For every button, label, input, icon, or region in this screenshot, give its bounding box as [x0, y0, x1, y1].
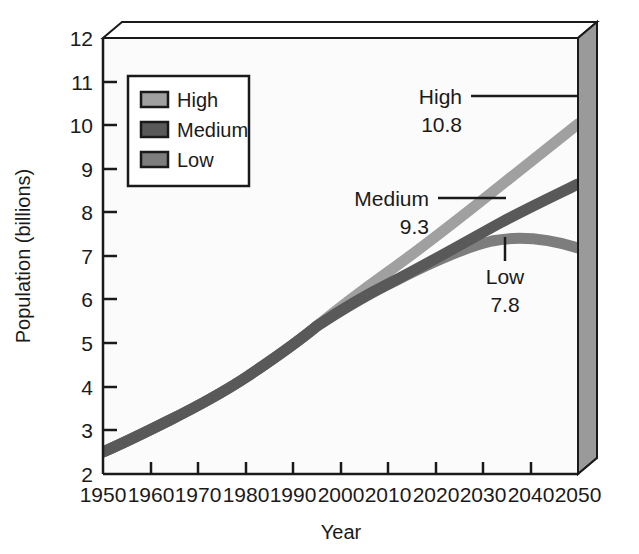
- y-tick-label: 8: [81, 201, 93, 224]
- x-tick-label: 1980: [223, 483, 270, 506]
- box-right-wall: [578, 22, 597, 474]
- legend-item-high[interactable]: High: [141, 89, 218, 111]
- y-tick-label: 4: [81, 376, 93, 399]
- y-tick-label: 12: [70, 27, 93, 50]
- y-tick-label: 6: [81, 288, 93, 311]
- x-tick-label: 1960: [128, 483, 175, 506]
- y-tick-label: 10: [70, 114, 93, 137]
- x-tick-label: 1950: [80, 483, 127, 506]
- x-tick-label: 2050: [555, 483, 602, 506]
- y-tick-labels: 12 11 10 9 8 7 6 5 4 3 2: [70, 27, 94, 486]
- x-tick-label: 2010: [365, 483, 412, 506]
- legend-label-medium: Medium: [177, 119, 248, 141]
- y-tick-label: 9: [81, 158, 93, 181]
- legend: High Medium Low: [128, 76, 249, 186]
- annotation-low-label: Low: [486, 265, 525, 288]
- population-projection-chart: 12 11 10 9 8 7 6 5 4 3 2 Population (bil…: [0, 0, 639, 554]
- annotation-medium-value: 9.3: [400, 215, 429, 238]
- y-tick-label: 5: [81, 332, 93, 355]
- legend-swatch-medium: [141, 122, 168, 137]
- legend-item-medium[interactable]: Medium: [141, 119, 248, 141]
- legend-swatch-low: [141, 152, 168, 167]
- x-tick-label: 2020: [413, 483, 460, 506]
- annotation-high-value: 10.8: [421, 113, 462, 136]
- legend-label-high: High: [177, 89, 218, 111]
- x-axis-title: Year: [321, 521, 362, 543]
- x-tick-label: 2040: [508, 483, 555, 506]
- x-tick-label: 2030: [460, 483, 507, 506]
- annotation-medium-label: Medium: [354, 187, 429, 210]
- x-tick-label: 1990: [270, 483, 317, 506]
- x-tick-label: 2000: [318, 483, 365, 506]
- y-axis-title: Population (billions): [12, 169, 34, 344]
- x-tick-label: 1970: [175, 483, 222, 506]
- legend-label-low: Low: [177, 149, 214, 171]
- annotation-high-label: High: [419, 85, 462, 108]
- y-tick-label: 7: [81, 245, 93, 268]
- annotation-low-value: 7.8: [490, 293, 519, 316]
- y-tick-label: 3: [81, 419, 93, 442]
- y-tick-label: 11: [71, 71, 93, 94]
- box-top-face: [103, 22, 597, 38]
- legend-swatch-high: [141, 92, 168, 107]
- legend-item-low[interactable]: Low: [141, 149, 214, 171]
- x-tick-labels: 1950 1960 1970 1980 1990 2000 2010 2020 …: [80, 483, 602, 506]
- chart-svg: 12 11 10 9 8 7 6 5 4 3 2 Population (bil…: [0, 0, 639, 554]
